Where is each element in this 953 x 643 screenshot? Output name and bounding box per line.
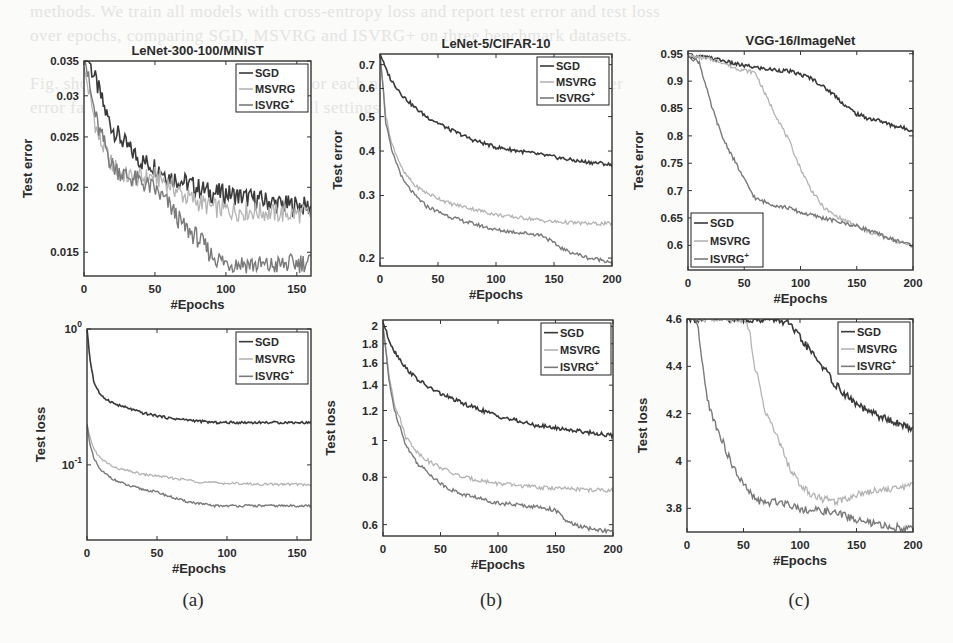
y-tick-label: 0.95 — [661, 48, 684, 60]
x-tick-label: 0 — [685, 277, 691, 289]
y-tick-label: 0.7 — [359, 59, 375, 71]
y-tick-label: 0.03 — [57, 90, 79, 102]
legend-entry: ISVRG+ — [560, 359, 599, 373]
subfigure-caption: (b) — [480, 589, 502, 611]
y-tick-label: 0.6 — [362, 519, 378, 531]
legend-entry: MSVRG — [255, 353, 295, 365]
legend-entry: SGD — [560, 327, 584, 339]
legend-entry: ISVRG+ — [556, 90, 595, 104]
legend: SGDMSVRGISVRG+ — [236, 64, 308, 112]
x-tick-label: 0 — [81, 283, 87, 295]
legend-entry: MSVRG — [857, 343, 897, 355]
x-tick-label: 50 — [149, 283, 162, 295]
y-tick-label: 3.8 — [666, 502, 683, 514]
subfigure-caption: (a) — [182, 589, 203, 611]
x-tick-label: 200 — [903, 539, 922, 551]
y-tick-label: 4 — [676, 455, 683, 467]
x-tick-label: 200 — [602, 273, 621, 285]
y-tick-label: 0.2 — [359, 252, 375, 264]
y-axis-label: Test error — [631, 131, 646, 191]
y-tick-label: 0.6 — [359, 82, 375, 94]
legend-entry: SGD — [857, 326, 881, 338]
chart-panel-c-bottom: 0501001502003.844.24.44.6#EpochsTest los… — [635, 313, 923, 568]
y-tick-label: 0.02 — [57, 181, 79, 193]
legend: SGDMSVRGISVRG+ — [691, 213, 763, 267]
y-tick-label: 1 — [372, 435, 379, 447]
x-tick-label: 50 — [151, 547, 164, 559]
chart-panel-b-top: 0501001502000.20.30.40.50.60.7LeNet-5/CI… — [330, 36, 622, 302]
x-tick-label: 0 — [684, 539, 690, 551]
chart-panel-a-top: 0501001500.0150.020.0250.030.035LeNet-30… — [20, 43, 311, 312]
x-tick-label: 0 — [377, 273, 383, 285]
x-axis-label: #Epochs — [773, 553, 827, 568]
y-tick-label: 1.6 — [362, 357, 378, 369]
x-tick-label: 100 — [790, 539, 809, 551]
y-axis-label: Test loss — [323, 400, 338, 455]
x-tick-label: 100 — [486, 273, 505, 285]
x-tick-label: 200 — [903, 277, 922, 289]
chart-panel-c-top: 0501001502000.60.650.70.750.80.850.90.95… — [631, 33, 923, 306]
y-axis-label: Test loss — [635, 398, 650, 453]
y-tick-label: 10-1 — [62, 455, 83, 471]
subfigure-caption: (c) — [788, 589, 809, 611]
y-axis-label: Test error — [20, 139, 35, 199]
y-tick-label: 0.4 — [359, 145, 376, 157]
x-tick-label: 50 — [434, 543, 447, 555]
x-tick-label: 100 — [791, 277, 810, 289]
x-tick-label: 150 — [287, 283, 306, 295]
legend-entry: SGD — [255, 336, 279, 348]
y-tick-label: 4.6 — [666, 313, 682, 325]
y-tick-label: 4.2 — [666, 408, 682, 420]
x-tick-label: 150 — [544, 273, 563, 285]
x-tick-label: 50 — [737, 539, 750, 551]
legend: SGDMSVRGISVRG+ — [541, 323, 611, 375]
legend: SGDMSVRGISVRG+ — [236, 332, 308, 384]
x-axis-label: #Epochs — [469, 287, 523, 302]
y-tick-label: 2 — [372, 320, 378, 332]
y-axis-label: Test error — [330, 130, 345, 190]
chart-panel-b-bottom: 0501001502000.60.811.21.41.61.82#EpochsT… — [323, 320, 623, 572]
legend-entry: MSVRG — [556, 76, 596, 88]
chart-title: VGG-16/ImageNet — [746, 33, 856, 48]
x-tick-label: 100 — [216, 283, 235, 295]
y-tick-label: 0.015 — [50, 246, 79, 258]
x-tick-label: 0 — [380, 543, 386, 555]
y-tick-label: 0.5 — [359, 111, 376, 123]
y-tick-label: 1.2 — [362, 405, 378, 417]
legend-entry: ISVRG+ — [857, 358, 896, 372]
y-tick-label: 0.9 — [667, 75, 683, 87]
y-axis-label: Test loss — [33, 407, 48, 462]
x-tick-label: 150 — [847, 539, 866, 551]
legend: SGDMSVRGISVRG+ — [537, 57, 609, 105]
x-tick-label: 100 — [488, 543, 507, 555]
x-axis-label: #Epochs — [773, 291, 827, 306]
x-axis-label: #Epochs — [172, 561, 226, 576]
chart-panel-a-bottom: 05010015010-1100#EpochsTest lossSGDMSVRG… — [33, 319, 311, 576]
legend-entry: SGD — [710, 217, 734, 229]
y-tick-label: 100 — [64, 319, 82, 335]
x-tick-label: 50 — [432, 273, 445, 285]
x-tick-label: 100 — [217, 547, 236, 559]
y-tick-label: 4.4 — [666, 360, 683, 372]
legend-entry: ISVRG+ — [255, 97, 294, 111]
legend-entry: SGD — [556, 60, 580, 72]
legend-entry: MSVRG — [710, 235, 750, 247]
y-tick-label: 0.6 — [667, 239, 683, 251]
y-tick-label: 0.8 — [362, 471, 379, 483]
x-tick-label: 50 — [738, 277, 751, 289]
legend: SGDMSVRGISVRG+ — [838, 322, 910, 374]
x-tick-label: 150 — [546, 543, 565, 555]
legend-entry: ISVRG+ — [255, 368, 294, 382]
y-tick-label: 1.8 — [362, 338, 379, 350]
y-tick-label: 0.85 — [661, 102, 684, 114]
y-tick-label: 0.025 — [50, 131, 79, 143]
y-tick-label: 0.8 — [667, 130, 684, 142]
x-tick-label: 150 — [287, 547, 306, 559]
y-tick-label: 0.035 — [50, 55, 79, 67]
legend-entry: SGD — [255, 67, 279, 79]
figure-panels: 0501001500.0150.020.0250.030.035LeNet-30… — [0, 0, 953, 643]
chart-title: LeNet-300-100/MNIST — [131, 43, 263, 58]
y-tick-label: 1.4 — [362, 379, 379, 391]
chart-title: LeNet-5/CIFAR-10 — [441, 36, 550, 51]
y-tick-label: 0.65 — [661, 212, 684, 224]
